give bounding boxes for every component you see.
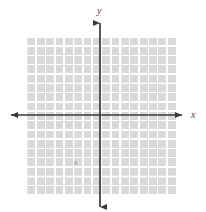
coordinate-plane-figure: y x bbox=[0, 0, 206, 212]
y-axis-label: y bbox=[97, 6, 101, 16]
x-axis-label: x bbox=[191, 110, 195, 120]
axes-layer bbox=[0, 0, 206, 212]
scan-speck-artifact bbox=[74, 161, 77, 165]
